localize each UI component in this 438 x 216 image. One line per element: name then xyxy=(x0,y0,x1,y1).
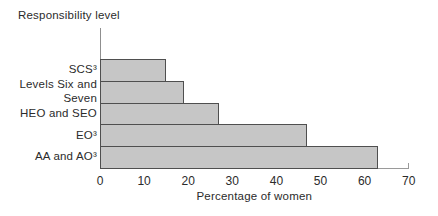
x-tick-10: 10 xyxy=(137,174,150,188)
category-label-4: AA and AO³ xyxy=(0,146,97,168)
bar-chart-figure: Responsibility level SCS³Levels Six and … xyxy=(0,0,438,216)
category-label-1: Levels Six and Seven xyxy=(0,81,97,103)
bar-1 xyxy=(100,81,184,104)
x-tick-20: 20 xyxy=(182,174,195,188)
x-tick-30: 30 xyxy=(226,174,239,188)
x-tick-0: 0 xyxy=(97,174,104,188)
x-axis-tick-labels: 010203040506070 xyxy=(0,174,438,188)
x-axis-label: Percentage of women xyxy=(197,190,313,202)
category-label-2: HEO and SEO xyxy=(0,103,97,125)
bar-2 xyxy=(100,103,219,126)
x-tick-70: 70 xyxy=(402,174,415,188)
bar-4 xyxy=(100,146,378,169)
x-tick-40: 40 xyxy=(270,174,283,188)
bar-3 xyxy=(100,124,307,147)
y-axis-title: Responsibility level xyxy=(18,9,120,21)
x-tick-50: 50 xyxy=(314,174,327,188)
x-tick-60: 60 xyxy=(358,174,371,188)
x-axis-end-tick xyxy=(408,163,409,169)
category-label-3: EO³ xyxy=(0,124,97,146)
bar-0 xyxy=(100,59,166,82)
